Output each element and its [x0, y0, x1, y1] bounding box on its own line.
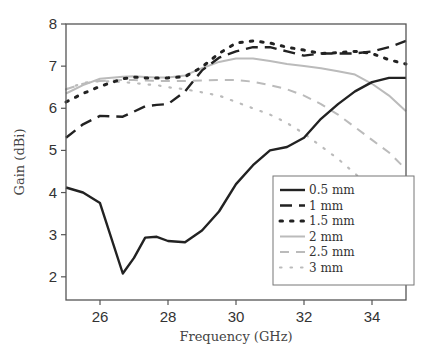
legend-label: 2.5 mm [309, 245, 355, 259]
y-tick-label: 5 [49, 141, 57, 158]
y-axis-title: Gain (dBi) [12, 129, 27, 196]
legend-label: 3 mm [309, 261, 344, 275]
legend: 0.5 mm1 mm1.5 mm2 mm2.5 mm3 mm [273, 176, 414, 285]
x-tick-label: 30 [228, 308, 245, 325]
series-line-2-5-mm [66, 80, 406, 169]
gain-vs-frequency-chart: 2345678 2628303234 Frequency (GHz) Gain … [0, 0, 422, 361]
y-tick-label: 8 [49, 15, 57, 32]
y-tick-label: 4 [49, 184, 57, 201]
x-tick-label: 26 [92, 308, 109, 325]
legend-label: 1 mm [309, 199, 344, 213]
y-tick-label: 2 [49, 268, 57, 285]
x-axis-title: Frequency (GHz) [179, 329, 292, 344]
legend-label: 1.5 mm [309, 214, 355, 228]
series-line-2-mm [66, 59, 406, 112]
y-tick-label: 6 [49, 99, 57, 116]
x-axis-ticks: 2628303234 [92, 300, 381, 325]
x-tick-label: 32 [296, 308, 313, 325]
series-line-1-mm [66, 41, 406, 138]
y-tick-label: 3 [49, 226, 57, 243]
x-tick-label: 34 [364, 308, 381, 325]
x-tick-label: 28 [160, 308, 177, 325]
y-tick-label: 7 [49, 57, 57, 74]
legend-label: 0.5 mm [309, 183, 355, 197]
legend-label: 2 mm [309, 230, 344, 244]
y-axis-ticks: 2345678 [49, 15, 66, 285]
